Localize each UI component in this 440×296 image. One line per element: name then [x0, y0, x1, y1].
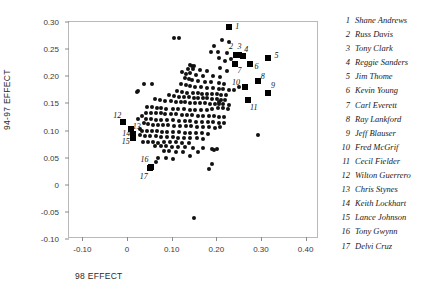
data-point [184, 124, 188, 128]
data-point [136, 117, 140, 121]
data-point [217, 115, 221, 119]
data-point [163, 99, 167, 103]
legend-item-number: 1 [337, 15, 355, 25]
data-point [190, 78, 194, 82]
data-point-number-label: 11 [250, 102, 257, 111]
data-point [149, 117, 153, 121]
data-point [222, 115, 226, 119]
data-point [188, 154, 192, 158]
data-point [163, 112, 167, 116]
data-point [215, 92, 219, 96]
data-point [199, 85, 203, 89]
data-point [159, 144, 163, 148]
data-point-number-label: 15 [122, 136, 130, 145]
data-point [213, 126, 217, 130]
data-point [192, 96, 196, 100]
data-point [189, 124, 193, 128]
data-point [196, 150, 200, 154]
data-point [198, 68, 202, 72]
data-point [151, 123, 155, 127]
scatter-plot-figure: 94-97 EFFECT 98 EFFECT 0.300.250.200.150… [0, 0, 440, 296]
data-point [222, 121, 226, 125]
data-point [146, 140, 150, 144]
highlighted-data-point [226, 24, 232, 30]
legend-item-label: Chris Stynes [355, 184, 398, 194]
legend-item: 7Carl Everett [337, 100, 437, 114]
data-point [200, 120, 204, 124]
data-point [193, 85, 197, 89]
data-point [224, 93, 228, 97]
data-point [220, 38, 224, 42]
data-point [174, 140, 178, 144]
legend-item-number: 2 [337, 29, 355, 39]
data-point [196, 114, 200, 118]
data-point [211, 120, 215, 124]
data-point [216, 106, 220, 110]
data-point [179, 100, 183, 104]
x-tick-label: 0.10 [164, 245, 180, 254]
data-point [218, 125, 222, 129]
data-point [210, 162, 214, 166]
data-point [158, 98, 162, 102]
data-point [192, 216, 196, 220]
highlighted-data-point [265, 55, 271, 61]
data-point [167, 149, 171, 153]
data-point [148, 134, 152, 138]
data-point [187, 141, 191, 145]
data-point [191, 146, 195, 150]
data-point [145, 105, 149, 109]
x-tick-mark [306, 237, 307, 241]
data-point [176, 145, 180, 149]
y-tick-label: -0.10 [41, 235, 59, 244]
legend-item-number: 12 [337, 170, 355, 180]
data-point [180, 141, 184, 145]
data-point-number-label: 12 [113, 110, 121, 119]
x-tick-mark [127, 237, 128, 241]
data-point [172, 124, 176, 128]
data-point [193, 101, 197, 105]
data-point [201, 125, 205, 129]
legend-item-label: Russ Davis [355, 29, 393, 39]
data-point [223, 98, 227, 102]
data-point-number-label: 6 [255, 61, 259, 70]
data-point [207, 167, 211, 171]
x-tick-label: 0 [125, 245, 129, 254]
data-point [162, 149, 166, 153]
data-point [203, 80, 207, 84]
data-point-number-label: 10 [232, 77, 240, 86]
x-tick-mark [261, 237, 262, 241]
data-point [150, 105, 154, 109]
legend-item-number: 5 [337, 71, 355, 81]
data-point-number-label: 8 [261, 72, 265, 81]
data-point [177, 36, 181, 40]
data-point [171, 107, 175, 111]
data-point [209, 80, 213, 84]
data-point [217, 56, 221, 60]
data-point [174, 112, 178, 116]
data-point [210, 107, 214, 111]
legend-item-label: Kevin Young [355, 85, 398, 95]
x-tick-mark [172, 237, 173, 241]
data-point-number-label: 1 [235, 21, 239, 30]
legend-item: 12Wilton Guerrero [337, 170, 437, 184]
data-point [217, 81, 221, 85]
data-point [221, 106, 225, 110]
data-point [188, 108, 192, 112]
data-point [180, 90, 184, 94]
data-point [182, 107, 186, 111]
legend-item-number: 3 [337, 43, 355, 53]
data-point [218, 66, 222, 70]
x-tick-label: 0.40 [298, 245, 314, 254]
data-point [155, 106, 159, 110]
legend-item-number: 15 [337, 212, 355, 222]
data-point [225, 51, 229, 55]
data-point [185, 91, 189, 95]
data-point [141, 140, 145, 144]
data-point [174, 100, 178, 104]
data-point [207, 114, 211, 118]
data-point [211, 86, 215, 90]
legend-item: 16Tony Gwynn [337, 226, 437, 240]
data-points-layer: 1234567891011121314151617 [69, 22, 317, 237]
data-point [212, 148, 216, 152]
data-point [206, 132, 210, 136]
